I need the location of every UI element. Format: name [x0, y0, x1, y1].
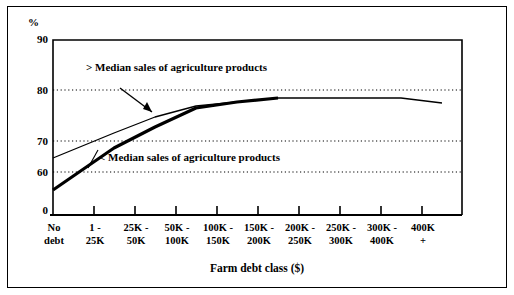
x-tick-label-25k-50k-line1: 25K - — [113, 222, 159, 235]
x-tick-label-250k-300k-line2: 300K — [318, 235, 364, 248]
annotation-above-median: > Median sales of agriculture products — [86, 60, 267, 75]
x-tick-label-150k-200k-line2: 200K — [236, 235, 282, 248]
x-tick-label-200k-250k-line1: 200K - — [277, 222, 323, 235]
x-tick-label-150k-200k-line1: 150K - — [236, 222, 282, 235]
x-tick-label-no-debt-line2: debt — [31, 235, 77, 248]
x-tick-label-100k-150k: 100K - 150K — [195, 222, 241, 247]
x-tick-label-100k-150k-line1: 100K - — [195, 222, 241, 235]
x-tick-label-200k-250k: 200K - 250K — [277, 222, 323, 247]
x-tick-label-1-25k-line1: 1 - — [72, 222, 118, 235]
x-tick-label-200k-250k-line2: 250K — [277, 235, 323, 248]
x-tick-label-1-25k-line2: 25K — [72, 235, 118, 248]
x-tick-label-25k-50k: 25K - 50K — [113, 222, 159, 247]
annotation-above-median-line1: > Median sales of — [86, 61, 168, 73]
x-tick-label-300k-400k: 300K - 400K — [359, 222, 405, 247]
x-tick-label-300k-400k-line2: 400K — [359, 235, 405, 248]
x-tick-label-25k-50k-line2: 50K — [113, 235, 159, 248]
x-axis-ticks — [94, 206, 422, 215]
x-tick-label-50k-100k-line2: 100K — [154, 235, 200, 248]
chart-figure: % 90 80 70 60 0 — [0, 0, 514, 295]
x-tick-label-no-debt-line1: No — [31, 222, 77, 235]
x-tick-label-400k-plus-line2: + — [400, 235, 446, 248]
x-tick-label-400k-plus-line1: 400K — [400, 222, 446, 235]
x-tick-label-250k-300k: 250K - 300K — [318, 222, 364, 247]
annotation-below-median-line1: < Median sales of agriculture products — [99, 151, 280, 163]
x-tick-label-400k-plus: 400K + — [400, 222, 446, 247]
x-tick-label-300k-400k-line1: 300K - — [359, 222, 405, 235]
x-axis-title: Farm debt class ($) — [0, 262, 514, 274]
x-tick-label-no-debt: No debt — [31, 222, 77, 247]
x-tick-label-250k-300k-line1: 250K - — [318, 222, 364, 235]
x-tick-label-1-25k: 1 - 25K — [72, 222, 118, 247]
annotation-above-median-line2: agriculture products — [171, 61, 267, 73]
x-tick-label-50k-100k-line1: 50K - — [154, 222, 200, 235]
annotation-arrow-upper — [120, 88, 152, 112]
annotation-below-median: < Median sales of agriculture products — [99, 150, 280, 165]
chart-plot-area — [0, 0, 514, 295]
x-tick-label-50k-100k: 50K - 100K — [154, 222, 200, 247]
x-tick-label-150k-200k: 150K - 200K — [236, 222, 282, 247]
x-tick-label-100k-150k-line2: 150K — [195, 235, 241, 248]
